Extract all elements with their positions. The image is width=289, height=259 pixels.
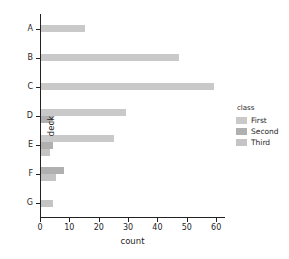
y-tick-label-d: D — [18, 112, 33, 120]
y-tick-label-f: F — [18, 170, 33, 178]
x-tick-mark-50 — [187, 218, 188, 222]
bar-c-first — [41, 83, 214, 90]
legend: class FirstSecondThird — [236, 104, 288, 148]
x-tick-mark-10 — [69, 218, 70, 222]
y-tick-mark-a — [36, 29, 40, 30]
x-tick-label-0: 0 — [28, 223, 52, 232]
y-tick-label-b: B — [18, 54, 33, 62]
x-tick-mark-40 — [157, 218, 158, 222]
x-tick-label-50: 50 — [175, 223, 199, 232]
legend-entries: FirstSecondThird — [236, 115, 288, 148]
x-axis-label: count — [40, 236, 225, 246]
legend-label-second: Second — [251, 127, 279, 136]
y-tick-mark-c — [36, 87, 40, 88]
x-tick-mark-60 — [216, 218, 217, 222]
y-tick-label-c: C — [18, 83, 33, 91]
x-tick-mark-0 — [40, 218, 41, 222]
x-axis-spine — [40, 217, 225, 218]
legend-label-first: First — [251, 116, 267, 125]
plot-area: ABCDEFG 0102030405060 deck — [40, 14, 225, 218]
y-tick-mark-f — [36, 174, 40, 175]
bar-f-third — [41, 174, 56, 181]
x-tick-label-40: 40 — [145, 223, 169, 232]
bar-a-first — [41, 25, 85, 32]
chart-figure: ABCDEFG 0102030405060 deck count class F… — [0, 0, 289, 259]
legend-label-third: Third — [251, 138, 270, 147]
x-tick-label-20: 20 — [87, 223, 111, 232]
y-tick-mark-e — [36, 145, 40, 146]
y-tick-mark-d — [36, 116, 40, 117]
y-axis-label: deck — [46, 96, 56, 156]
x-tick-mark-20 — [99, 218, 100, 222]
legend-item-second[interactable]: Second — [236, 126, 288, 137]
bar-f-second — [41, 167, 64, 174]
x-tick-label-10: 10 — [57, 223, 81, 232]
legend-swatch-first — [236, 117, 247, 124]
y-tick-label-g: G — [18, 199, 33, 207]
x-tick-label-30: 30 — [116, 223, 140, 232]
y-tick-mark-b — [36, 58, 40, 59]
x-tick-mark-30 — [128, 218, 129, 222]
legend-title: class — [237, 104, 288, 112]
bar-g-third — [41, 200, 53, 207]
x-tick-label-60: 60 — [204, 223, 228, 232]
bar-b-first — [41, 54, 179, 61]
legend-item-third[interactable]: Third — [236, 137, 288, 148]
y-tick-label-e: E — [18, 141, 33, 149]
legend-swatch-second — [236, 128, 247, 135]
y-tick-label-a: A — [18, 25, 33, 33]
legend-swatch-third — [236, 139, 247, 146]
legend-item-first[interactable]: First — [236, 115, 288, 126]
y-tick-mark-g — [36, 203, 40, 204]
